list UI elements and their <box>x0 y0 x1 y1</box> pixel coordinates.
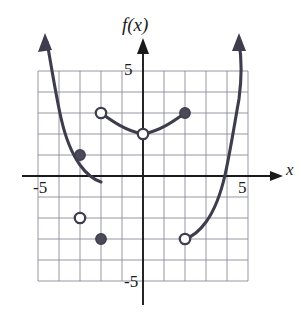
x-tick-label-positive-5: 5 <box>238 178 247 198</box>
function-label: f(x) <box>122 14 148 36</box>
graph-canvas <box>0 0 305 315</box>
x-axis-arrow-icon <box>270 171 283 181</box>
marker-open-right-branch <box>180 234 190 244</box>
marker-open-middle-left <box>96 108 106 118</box>
function-graph-figure: f(x) x 5 -5 -5 5 <box>0 0 305 315</box>
marker-open-middle-vertex <box>138 129 148 139</box>
marker-open-left-branch <box>75 213 85 223</box>
y-tick-label-negative-5: -5 <box>124 272 138 292</box>
y-axis <box>137 38 149 305</box>
marker-closed-left-branch <box>96 234 106 244</box>
x-tick-label-negative-5: -5 <box>33 178 47 198</box>
x-axis-label: x <box>286 160 294 180</box>
y-tick-label-positive-5: 5 <box>124 60 133 80</box>
marker-isolated-point <box>75 150 85 160</box>
curve-left-branch <box>38 33 101 182</box>
right-branch-arrow-icon <box>232 33 246 51</box>
left-branch-arrow-icon <box>38 33 52 52</box>
marker-closed-middle-right <box>180 108 190 118</box>
y-axis-arrow-icon <box>137 38 149 54</box>
curve-right-branch <box>185 33 246 239</box>
